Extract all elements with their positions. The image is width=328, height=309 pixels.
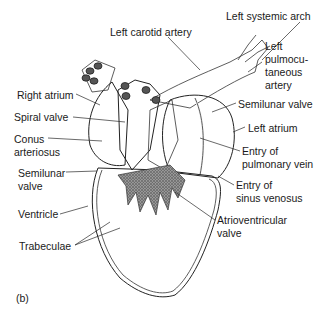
label-atrioventricular-valve-2: valve <box>217 227 242 239</box>
label-semilunar-valve-right: Semilunar valve <box>238 98 313 110</box>
label-trabeculae: Trabeculae <box>19 240 71 252</box>
label-semilunar-valve-left-2: valve <box>18 180 43 192</box>
label-entry-sinus-venosus-1: Entry of <box>236 179 272 191</box>
label-left-pulmocutaneous-artery-4: artery <box>265 79 293 91</box>
label-left-pulmocutaneous-artery-1: Left <box>265 40 283 52</box>
label-entry-pulmonary-vein-1: Entry of <box>242 145 278 157</box>
label-entry-sinus-venosus-2: sinus venosus <box>236 192 303 204</box>
trabeculae-shape <box>118 165 185 215</box>
label-left-pulmocutaneous-artery-2: pulmocu- <box>265 53 309 65</box>
label-ventricle: Ventricle <box>18 208 58 220</box>
label-atrioventricular-valve-1: Atrioventricular <box>217 214 288 226</box>
label-conus-arteriosus-1: Conus <box>14 133 44 145</box>
label-left-carotid-artery: Left carotid artery <box>110 26 192 38</box>
label-entry-pulmonary-vein-2: pulmonary vein <box>242 158 313 170</box>
label-left-atrium: Left atrium <box>248 122 298 134</box>
label-right-atrium: Right atrium <box>17 89 74 101</box>
label-spiral-valve: Spiral valve <box>14 111 68 123</box>
panel-label: (b) <box>16 292 29 304</box>
label-conus-arteriosus-2: arteriosus <box>14 146 60 158</box>
label-left-pulmocutaneous-artery-3: taneous <box>265 66 302 78</box>
label-left-systemic-arch: Left systemic arch <box>226 10 311 22</box>
labels: Left carotid artery Left systemic arch L… <box>14 10 313 304</box>
heart-diagram: Left carotid artery Left systemic arch L… <box>0 0 328 309</box>
label-semilunar-valve-left-1: Semilunar <box>18 167 66 179</box>
